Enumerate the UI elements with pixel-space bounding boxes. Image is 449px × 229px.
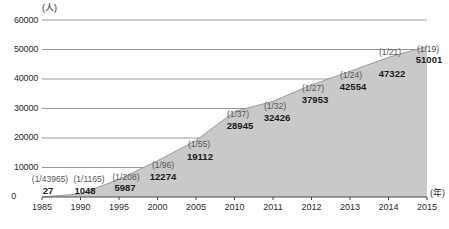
x-tick-label: 2014 xyxy=(378,203,398,212)
data-label: 37953 xyxy=(302,95,328,105)
data-label: 19112 xyxy=(187,152,213,162)
ratio-annotation: (1/24) xyxy=(340,71,362,80)
x-tick-label: 2012 xyxy=(301,203,321,212)
ratio-annotation: (1/1165) xyxy=(73,175,104,184)
ratio-annotation: (1/32) xyxy=(264,102,286,111)
ratio-annotation: (1/43965) xyxy=(32,175,68,184)
x-tick-label: 1995 xyxy=(109,203,129,212)
x-tick-label: 2015 xyxy=(417,203,437,212)
x-axis-unit: (年) xyxy=(430,189,445,198)
ratio-annotation: (1/37) xyxy=(227,110,249,119)
area-chart: (人) 60000 50000 40000 30000 20000 10000 … xyxy=(0,0,449,229)
x-tick-label: 2005 xyxy=(186,203,206,212)
data-label: 12274 xyxy=(150,172,176,182)
plot-area xyxy=(0,0,449,229)
data-label: 47322 xyxy=(379,69,405,79)
ratio-annotation: (1/96) xyxy=(152,161,174,170)
x-tick-label: 2011 xyxy=(263,203,282,212)
x-tick-label: 2010 xyxy=(224,203,244,212)
ratio-annotation: (1/27) xyxy=(302,84,324,93)
data-label: 51001 xyxy=(416,55,442,65)
x-tick-label: 2013 xyxy=(340,203,360,212)
data-label: 28945 xyxy=(227,121,253,131)
ratio-annotation: (1/55) xyxy=(188,140,210,149)
x-tick-label: 1985 xyxy=(32,203,52,212)
ratio-annotation: (1/208) xyxy=(113,173,140,182)
data-label: 5987 xyxy=(114,183,135,193)
data-label: 42554 xyxy=(340,82,366,92)
ratio-annotation: (1/21) xyxy=(379,48,401,57)
x-tick-label: 1990 xyxy=(70,203,90,212)
x-tick-label: 2000 xyxy=(147,203,167,212)
data-label: 27 xyxy=(43,186,54,196)
data-label: 1048 xyxy=(74,186,95,196)
ratio-annotation: (1/19) xyxy=(417,45,439,54)
data-label: 32426 xyxy=(264,113,290,123)
